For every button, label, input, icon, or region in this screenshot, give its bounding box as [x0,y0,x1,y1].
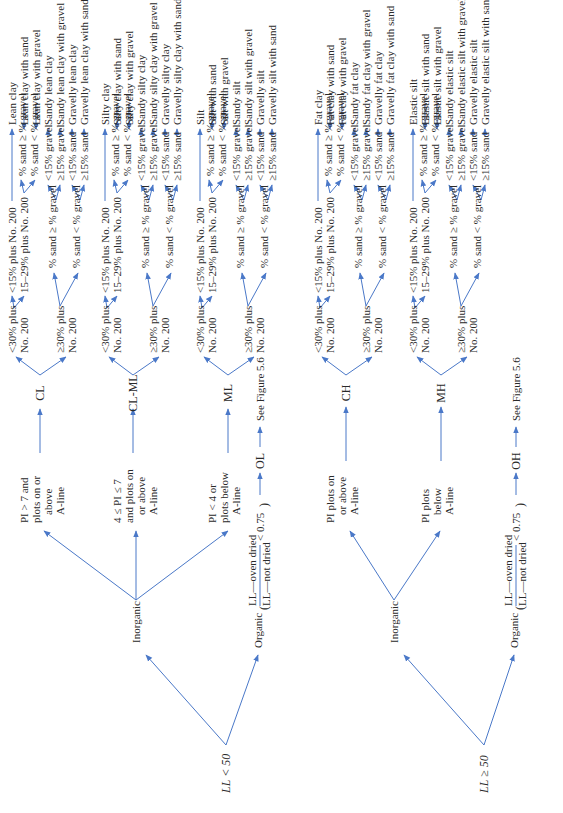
tier4-ge15-sand: ≥15% sand [78,131,90,181]
arrow [394,531,440,600]
tier4-ge15-gravel: ≥15% gravel [147,125,159,181]
tier2-lt30-plus-no200: <30% plus [407,306,419,353]
plasticity-condition: 4 ≤ PI ≤ 7 [111,479,123,523]
tier3-lt15-plus-no200: <15% plus No. 200 [6,207,18,293]
tier2-lt30-plus-no200: <30% plus [194,306,206,353]
see-figure-link-low: See Figure 5.6 [254,357,266,421]
group-symbol-oh: OH [509,452,523,470]
arrow [204,357,228,375]
tier2-no200-label: No. 200 [467,317,479,353]
soil-group-name: Gravelly lean clay with sand [78,0,90,125]
arrow [24,180,35,193]
tier3-sand-lt-gravel: % sand < % gravel [163,185,175,268]
inorganic-node-low: Inorganic [130,601,142,643]
tier4-sand-ge-gravel: % sand ≥ % gravel [109,93,121,176]
arrow [146,655,226,745]
arrow [242,273,248,306]
arrow [360,273,366,306]
group-symbol-cl-ml: CL-ML [126,374,140,411]
plasticity-condition: PI plots [419,489,431,523]
organic-ratio-numerator: LL—oven dried [246,534,258,606]
tier2-no200-label: No. 200 [66,317,78,353]
soil-group-name: Sandy elastic silt with gravel [455,0,467,125]
tier4-ge15-gravel: ≥15% gravel [360,125,372,181]
arrow [209,180,212,193]
tier2-ge30-plus-no200: ≥30% plus [360,306,372,353]
tier3-sand-lt-gravel: % sand < % gravel [471,185,483,268]
soil-group-name: Sandy fat clay [348,62,360,125]
plasticity-condition: above [42,489,54,515]
tier2-no200-label: No. 200 [419,317,431,353]
plasticity-condition: A-line [147,487,159,515]
arrow [425,180,436,193]
tier2-no200-label: No. 200 [159,317,171,353]
arrow [248,273,266,306]
tier4-ge15-gravel: ≥15% gravel [242,125,254,181]
soil-group-name: Sandy lean clay with gravel [54,3,66,125]
arrow [109,357,133,375]
paren: ) [257,503,271,507]
plasticity-condition: plots on or [30,476,42,523]
tier2-ge30-plus-no200: ≥30% plus [54,306,66,353]
arrow [16,357,40,375]
arrow [153,273,171,306]
tier4-ge15-sand: ≥15% sand [479,131,491,181]
tier3-15-29-plus-no200: 15–29% plus No. 200 [324,197,336,293]
paren: ) [513,503,527,507]
tier4-sand-lt-gravel: % sand < % gravel [216,93,228,176]
arrow [404,655,484,745]
root-ll-lt-50: LL < 50 [219,754,233,794]
arrow [228,357,254,375]
see-figure-link-high: See Figure 5.6 [510,357,522,421]
tier4-sand-ge-gravel: % sand ≥ % gravel [322,93,334,176]
tier2-no200-label: No. 200 [372,317,384,353]
arrow [226,655,258,745]
root-ll-ge-50: LL ≥ 50 [477,755,491,794]
arrow [136,531,228,600]
arrow [60,273,78,306]
arrow [44,531,136,600]
tier4-lt15-sand: <15% sand [254,131,266,181]
tier2-ge30-plus-no200: ≥30% plus [242,306,254,353]
arrow [346,357,372,375]
tier3-sand-ge-gravel: % sand ≥ % gravel [139,185,151,268]
tier3-sand-lt-gravel: % sand < % gravel [376,185,388,268]
flowchart-stage: Lean clayLean clay with sandLean clay wi… [0,0,563,813]
soil-group-name: Gravelly silty clay [159,43,171,125]
tier4-lt15-gravel: <15% gravel [230,124,242,181]
tier2-no200-label: No. 200 [18,317,30,353]
arrow [322,357,346,375]
tier4-sand-lt-gravel: % sand < % gravel [121,93,133,176]
tier3-sand-lt-gravel: % sand < % gravel [70,185,82,268]
arrow [461,273,479,306]
group-symbol-cl: CL [33,385,47,400]
tier4-lt15-sand: <15% sand [467,131,479,181]
arrow [40,357,66,375]
arrow [350,531,394,600]
arrow [54,273,60,306]
plasticity-condition: A-line [443,487,455,515]
tier3-15-29-plus-no200: 15–29% plus No. 200 [111,197,123,293]
soil-group-name: Sandy silty clay with gravel [147,2,159,125]
soil-group-name: Sandy elastic silt [443,50,455,125]
group-symbol-ol: OL [253,453,267,469]
organic-ratio-condition: < 0.75 [510,512,522,541]
plasticity-condition: PI < 4 or [206,484,218,523]
soil-group-name: Sandy lean clay [42,55,54,125]
tier2-lt30-plus-no200: <30% plus [312,306,324,353]
soil-group-name: Gravelly silt [254,70,266,125]
tier4-sand-lt-gravel: % sand < % gravel [429,93,441,176]
arrow [417,357,441,375]
plasticity-condition: A-line [230,487,242,515]
tier2-no200-label: No. 200 [254,317,266,353]
tier2-no200-label: No. 200 [206,317,218,353]
tier4-ge15-sand: ≥15% sand [171,131,183,181]
tier2-no200-label: No. 200 [111,317,123,353]
tier2-ge30-plus-no200: ≥30% plus [455,306,467,353]
organic-ratio-denominator: LL—not dried [260,542,272,606]
plasticity-condition: A-line [54,487,66,515]
tier4-sand-ge-gravel: % sand ≥ % gravel [16,93,28,176]
arrow [327,180,330,193]
arrow [366,273,384,306]
tier3-lt15-plus-no200: <15% plus No. 200 [99,207,111,293]
